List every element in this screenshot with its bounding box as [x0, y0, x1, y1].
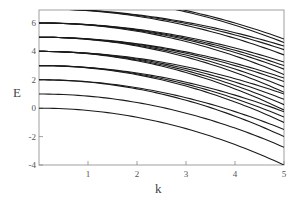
- y-tick-label: 0: [32, 103, 37, 113]
- band-curve: [39, 80, 284, 137]
- y-axis-title: E: [13, 85, 21, 100]
- chart: -4-2024612345 E k: [0, 0, 299, 207]
- x-tick-label: 4: [233, 169, 238, 179]
- y-tick-label: 6: [32, 18, 37, 28]
- y-tick-label: 2: [32, 75, 37, 85]
- x-tick-label: 5: [282, 169, 287, 179]
- y-tick-label: 4: [32, 46, 37, 56]
- band-curve: [39, 37, 284, 81]
- x-tick-label: 2: [135, 169, 140, 179]
- band-curve: [39, 108, 284, 165]
- x-tick-label: 1: [86, 169, 91, 179]
- band-curve: [39, 9, 284, 46]
- curves: [39, 0, 284, 165]
- y-tick-label: -2: [29, 132, 37, 142]
- x-axis-title: k: [155, 181, 162, 196]
- y-tick-label: -4: [29, 160, 37, 170]
- band-curve: [39, 37, 284, 78]
- x-tick-label: 3: [184, 169, 189, 179]
- band-curve: [39, 66, 284, 112]
